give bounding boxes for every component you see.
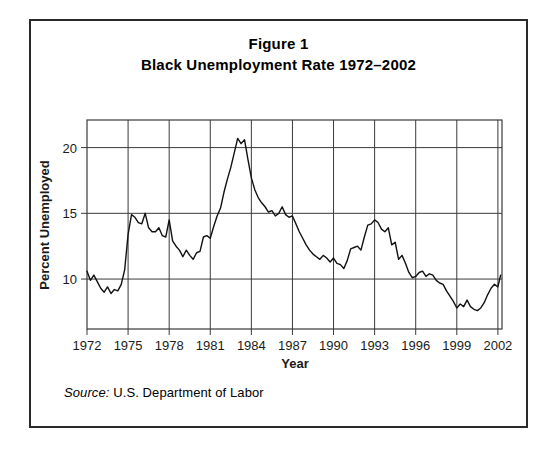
chart-axes (87, 120, 502, 329)
y-tick-label: 10 (63, 272, 77, 287)
plot-area-border (87, 120, 502, 329)
chart-gridlines (87, 120, 502, 329)
x-tick-label: 1984 (237, 338, 266, 353)
y-axis-tick-labels: 101520 (63, 141, 77, 287)
line-chart: 1972197519781981198419871990199319961999… (31, 21, 530, 430)
series-line (87, 138, 501, 310)
x-tick-label: 1987 (278, 338, 307, 353)
x-tick-label: 1996 (401, 338, 430, 353)
x-tick-label: 1978 (155, 338, 184, 353)
x-tick-label: 2002 (483, 338, 512, 353)
x-tick-label: 1999 (442, 338, 471, 353)
x-tick-label: 1981 (196, 338, 225, 353)
y-axis-title: Percent Unemployed (37, 160, 52, 289)
x-tick-label: 1993 (360, 338, 389, 353)
x-axis-title: Year (281, 356, 308, 371)
chart-series-lines (87, 138, 501, 310)
x-tick-label: 1972 (73, 338, 102, 353)
x-tick-label: 1975 (114, 338, 143, 353)
source-text: U.S. Department of Labor (110, 385, 264, 400)
y-tick-label: 20 (63, 141, 77, 156)
source-note: Source: U.S. Department of Labor (64, 385, 264, 400)
chart-tick-marks (81, 148, 498, 335)
x-axis-tick-labels: 1972197519781981198419871990199319961999… (73, 338, 513, 353)
figure-frame: Figure 1 Black Unemployment Rate 1972–20… (29, 19, 528, 428)
source-label: Source: (64, 385, 110, 400)
x-tick-label: 1990 (319, 338, 348, 353)
y-tick-label: 15 (63, 206, 77, 221)
